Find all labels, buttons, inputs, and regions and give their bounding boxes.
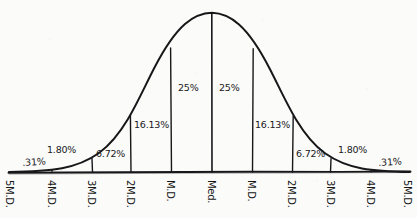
ordinate-plus-2md: [293, 116, 294, 172]
ordinate-minus-3md: [92, 159, 93, 173]
area-label-plus-2to3md: 6.72%: [296, 149, 325, 159]
area-label-minus-3to4md: 1.80%: [47, 145, 76, 155]
area-label-median-to-plus-1md: 25%: [219, 83, 240, 93]
axis-label-minus-3md: 3M.D.: [86, 180, 96, 208]
axis-label-minus-2md: 2M.D.: [125, 180, 135, 208]
axis-label-median: Med.: [206, 180, 216, 203]
axis-label-minus-5md: 5M.D.: [4, 180, 14, 208]
axis-label-minus-1md: M.D.: [165, 180, 175, 202]
ordinate-plus-3md: [331, 159, 332, 172]
axis-label-plus-2md: 2M.D.: [286, 180, 296, 208]
area-label-minus-1md-to-median: 25%: [178, 83, 199, 93]
axis-label-plus-5md: 5M.D.: [402, 180, 412, 208]
area-label-plus-1to2md: 16.13%: [255, 120, 290, 130]
area-label-minus-1to2md: 16.13%: [134, 120, 169, 130]
area-label-plus-4to5md: .31%: [378, 156, 402, 167]
ordinate-minus-1md: [171, 48, 172, 172]
area-label-minus-2to3md: 6.72%: [96, 149, 125, 159]
x-axis: [9, 171, 411, 174]
area-label-minus-4to5md: .31%: [22, 156, 46, 167]
axis-label-plus-3md: 3M.D.: [325, 180, 335, 208]
axis-label-minus-4md: 4M.D.: [46, 180, 56, 208]
axis-label-plus-4md: 4M.D.: [365, 180, 375, 208]
distribution-figure: .31% 1.80% 6.72% 16.13% 25% 25% 16.13% 6…: [0, 0, 417, 218]
area-label-plus-3to4md: 1.80%: [338, 145, 367, 155]
ordinate-minus-2md: [130, 115, 131, 172]
axis-label-plus-1md: M.D.: [246, 180, 256, 202]
ordinate-plus-1md: [253, 49, 254, 172]
